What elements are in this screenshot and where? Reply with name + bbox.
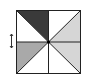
pinwheel-diagram	[0, 0, 85, 81]
side-arrow-icon	[10, 34, 13, 48]
center-dot	[47, 40, 50, 43]
